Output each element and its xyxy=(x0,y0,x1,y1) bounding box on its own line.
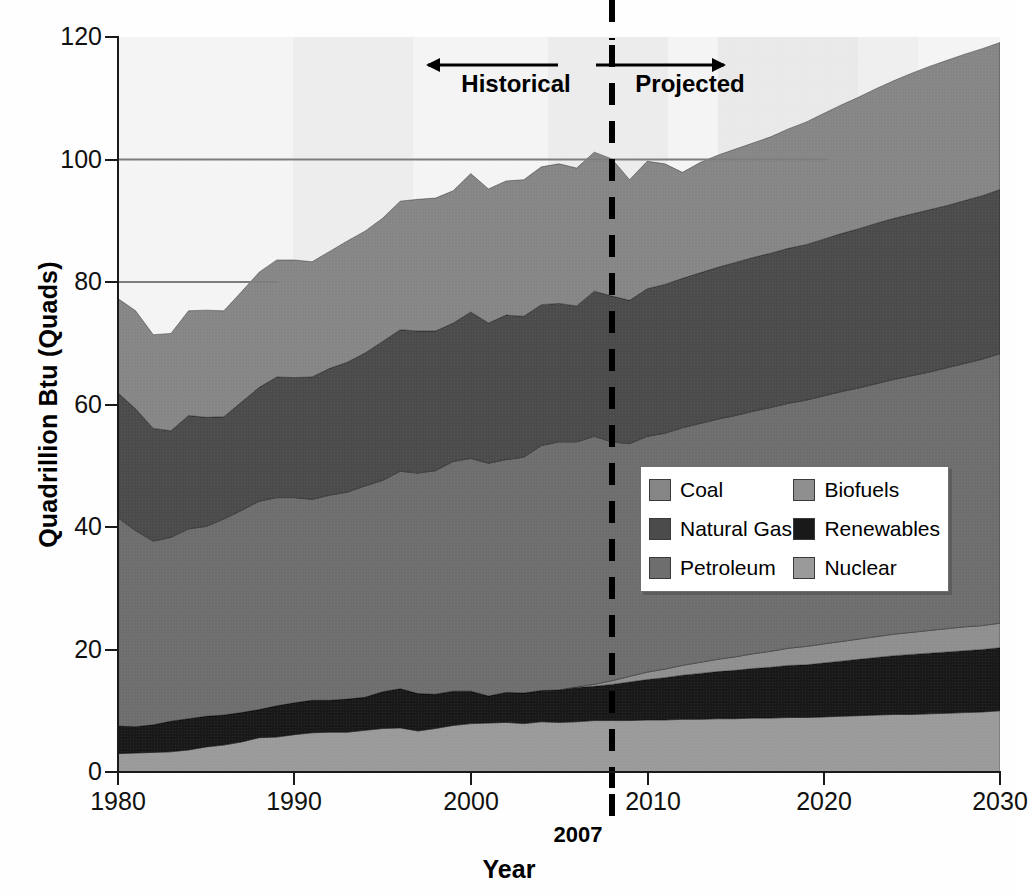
legend-item-petroleum[interactable]: Petroleum xyxy=(649,556,793,580)
x-tick-label-1990: 1990 xyxy=(249,789,339,814)
x-tick-2010 xyxy=(647,773,649,785)
legend-label-petroleum: Petroleum xyxy=(680,556,776,580)
legend-item-renewables[interactable]: Renewables xyxy=(793,517,940,541)
x-tick-label-2000: 2000 xyxy=(426,789,516,814)
legend-swatch-natural-gas xyxy=(649,518,671,540)
plot-area xyxy=(118,37,1000,772)
marker-line-extension xyxy=(118,0,1000,40)
y-tick-60 xyxy=(105,404,118,406)
legend-swatch-renewables xyxy=(793,518,815,540)
y-tick-80 xyxy=(105,281,118,283)
legend-swatch-petroleum xyxy=(649,557,671,579)
y-tick-label-120: 120 xyxy=(32,24,102,49)
legend-swatch-nuclear xyxy=(793,557,815,579)
legend-label-coal: Coal xyxy=(680,478,723,502)
x-tick-1980 xyxy=(117,773,119,785)
chart-legend: Coal Biofuels Natural Gas Renewables Pet… xyxy=(640,466,949,592)
y-tick-100 xyxy=(105,159,118,161)
legend-swatch-coal xyxy=(649,479,671,501)
x-tick-2020 xyxy=(823,773,825,785)
stacked-area-plot xyxy=(118,37,1000,772)
legend-swatch-biofuels xyxy=(793,479,815,501)
y-tick-label-0: 0 xyxy=(32,759,102,784)
legend-label-renewables: Renewables xyxy=(824,517,940,541)
legend-item-biofuels[interactable]: Biofuels xyxy=(793,478,940,502)
y-axis-title: Quadrillion Btu (Quads) xyxy=(34,95,63,715)
y-tick-40 xyxy=(105,526,118,528)
x-tick-label-1980: 1980 xyxy=(73,789,163,814)
projected-label: Projected xyxy=(595,70,785,98)
y-tick-20 xyxy=(105,649,118,651)
marker-year-label: 2007 xyxy=(518,822,638,848)
x-tick-1990 xyxy=(293,773,295,785)
legend-item-coal[interactable]: Coal xyxy=(649,478,793,502)
legend-item-natural-gas[interactable]: Natural Gas xyxy=(649,517,793,541)
legend-label-biofuels: Biofuels xyxy=(824,478,899,502)
historical-label: Historical xyxy=(421,70,611,98)
x-tick-label-2020: 2020 xyxy=(779,789,869,814)
legend-label-nuclear: Nuclear xyxy=(824,556,896,580)
x-axis-title: Year xyxy=(0,855,1018,884)
x-axis-line xyxy=(117,771,1001,773)
legend-label-natural-gas: Natural Gas xyxy=(680,517,792,541)
x-tick-2030 xyxy=(999,773,1001,785)
x-tick-2000 xyxy=(470,773,472,785)
x-tick-label-2010: 2010 xyxy=(608,789,698,814)
y-tick-120 xyxy=(105,36,118,38)
x-tick-label-2030: 2030 xyxy=(955,789,1032,814)
legend-item-nuclear[interactable]: Nuclear xyxy=(793,556,940,580)
